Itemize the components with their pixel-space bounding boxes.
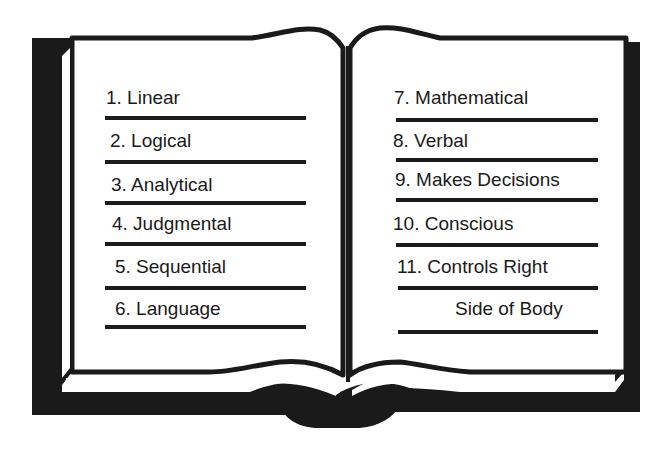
- list-item: 3. Analytical: [111, 175, 212, 195]
- right-rule-4: [396, 243, 598, 247]
- list-item: 6. Language: [115, 299, 221, 319]
- right-rule-6: [398, 330, 598, 334]
- open-book-illustration: [0, 0, 672, 456]
- left-rule-1: [105, 116, 306, 120]
- list-item: 8. Verbal: [393, 131, 468, 151]
- list-item: 9. Makes Decisions: [395, 170, 560, 190]
- right-rule-2: [396, 158, 598, 162]
- list-item: 1. Linear: [106, 88, 180, 108]
- left-rule-6: [105, 325, 306, 329]
- left-rule-5: [105, 286, 306, 290]
- list-item: 11. Controls Right: [397, 257, 548, 277]
- right-rule-1: [396, 118, 598, 122]
- left-rule-4: [105, 242, 306, 246]
- list-item: 7. Mathematical: [394, 88, 528, 108]
- list-item: 2. Logical: [110, 131, 191, 151]
- list-item: 4. Judgmental: [112, 214, 231, 234]
- right-rule-5: [398, 286, 598, 290]
- list-item: 5. Sequential: [115, 257, 226, 277]
- right-rule-3: [396, 198, 598, 202]
- left-rule-3: [105, 201, 306, 205]
- list-item: Side of Body: [455, 299, 563, 319]
- list-item: 10. Conscious: [393, 214, 513, 234]
- left-rule-2: [105, 160, 306, 164]
